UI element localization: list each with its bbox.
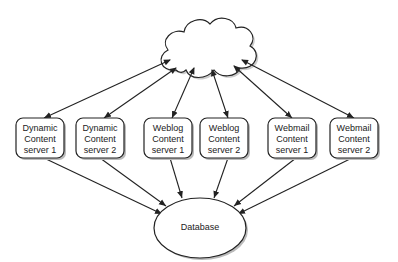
server-node-dynamic-2: Dynamic Content server 2 (76, 123, 124, 156)
server-node-weblog-1: Weblog Content server 1 (144, 123, 192, 156)
server-label-line: Content (200, 134, 248, 145)
server-label-line: server 2 (76, 145, 124, 156)
server-label-line: server 1 (144, 145, 192, 156)
server-label-line: Content (16, 134, 64, 145)
server-node-dynamic-1: Dynamic Content server 1 (16, 123, 64, 156)
server-label-line: Dynamic (76, 123, 124, 134)
server-label-line: Weblog (200, 123, 248, 134)
server-node-webmail-1: Webmail Content server 1 (268, 123, 316, 156)
server-label-line: Content (144, 134, 192, 145)
server-label-line: server 2 (200, 145, 248, 156)
server-label-line: Webmail (268, 123, 316, 134)
server-label-line: server 1 (16, 145, 64, 156)
server-label-line: Content (330, 134, 378, 145)
server-node-weblog-2: Weblog Content server 2 (200, 123, 248, 156)
server-label-line: Webmail (330, 123, 378, 134)
database-label: Database (154, 222, 246, 232)
server-label-line: server 2 (330, 145, 378, 156)
server-label-line: Weblog (144, 123, 192, 134)
server-label-line: Content (268, 134, 316, 145)
internet-cloud-icon (161, 18, 258, 79)
server-label-line: server 1 (268, 145, 316, 156)
server-label-line: Dynamic (16, 123, 64, 134)
server-boxes (16, 118, 380, 160)
server-node-webmail-2: Webmail Content server 2 (330, 123, 378, 156)
server-label-line: Content (76, 134, 124, 145)
